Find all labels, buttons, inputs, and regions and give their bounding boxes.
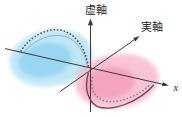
x-axis-label: x bbox=[173, 82, 179, 93]
x-axis-arrowhead-icon bbox=[162, 82, 169, 86]
imaginary-axis-label: 虚軸 bbox=[85, 3, 107, 16]
real-axis-label: 実軸 bbox=[141, 20, 163, 33]
real-axis-arrowhead-icon bbox=[133, 36, 140, 41]
vertical-axis-arrowhead-icon bbox=[88, 19, 93, 26]
complex-plane-lobe-diagram: 虚軸 実軸 x bbox=[0, 0, 182, 117]
diagram-canvas: 虚軸 実軸 x bbox=[0, 0, 182, 117]
